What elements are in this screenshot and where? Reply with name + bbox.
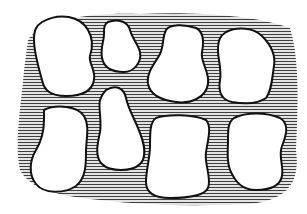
blob-1 <box>34 16 94 96</box>
sketch-drawing <box>0 0 307 214</box>
blob-7 <box>146 115 209 198</box>
blob-8 <box>228 114 287 191</box>
sketch-canvas <box>0 0 307 214</box>
blob-4 <box>218 29 274 104</box>
